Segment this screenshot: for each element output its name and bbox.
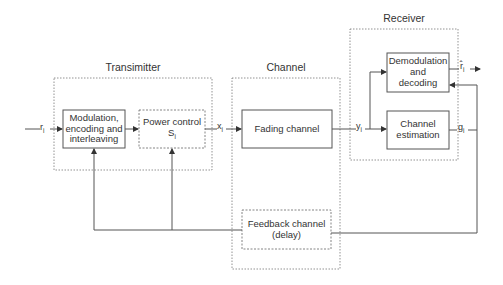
fading-channel-label: Fading channel [242, 110, 332, 148]
signal-yi: yi [356, 121, 362, 133]
modulation-label: Modulation, encoding and interleaving [63, 110, 125, 148]
signal-output-ri-hat: r̂i [460, 61, 464, 73]
signal-gi: gi [458, 122, 464, 134]
channel-estimation-line2: estimation [396, 130, 439, 141]
demodulation-label: Demodulation and decoding [387, 53, 449, 92]
modulation-line3: interleaving [70, 134, 119, 145]
feedback-channel-line1: Feedback channel [248, 219, 326, 230]
signal-xi: xi [217, 121, 223, 133]
modulation-line1: Modulation, [69, 113, 118, 124]
power-control-label: Power control Si [139, 110, 205, 148]
signal-input-ri: ri [40, 122, 44, 134]
channel-title: Channel [232, 61, 340, 73]
channel-estimation-label: Channel estimation [387, 111, 449, 149]
demodulation-line3: decoding [399, 78, 438, 89]
fading-channel-line1: Fading channel [255, 124, 320, 135]
power-control-symbol: Si [168, 128, 176, 140]
feedback-channel-label: Feedback channel (delay) [242, 210, 331, 249]
receiver-title: Receiver [350, 12, 458, 24]
yi-to-demod-arrow [370, 72, 386, 129]
feedback-channel-line2: (delay) [272, 230, 301, 241]
transmitter-title: Transimitter [54, 61, 212, 73]
